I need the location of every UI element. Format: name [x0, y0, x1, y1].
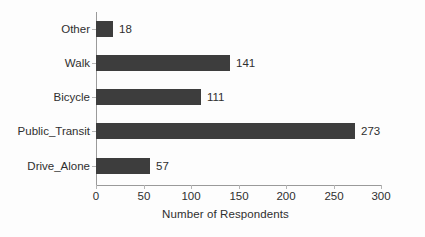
x-axis-title: Number of Respondents	[0, 208, 425, 220]
bar-value-label: 18	[119, 21, 132, 37]
x-axis-tick-label: 200	[266, 190, 306, 202]
category-label-public-transit: Public_Transit	[0, 123, 90, 139]
bar-other	[96, 21, 113, 37]
bar-rect	[96, 89, 201, 105]
category-label-drive-alone: Drive_Alone	[0, 158, 90, 174]
y-axis-tick	[92, 97, 96, 98]
bar-drive-alone	[96, 158, 150, 174]
y-axis-tick	[92, 131, 96, 132]
x-axis-tick-label: 150	[219, 190, 259, 202]
x-axis-tick-mark	[96, 185, 97, 189]
bar-rect	[96, 21, 113, 37]
bar-bicycle	[96, 89, 201, 105]
bar-chart-figure: 1814111127357 OtherWalkBicyclePublic_Tra…	[0, 0, 425, 237]
category-label-bicycle: Bicycle	[0, 89, 90, 105]
bar-value-label: 111	[207, 89, 224, 105]
bar-value-label: 57	[156, 158, 169, 174]
x-axis-tick-label: 300	[361, 190, 401, 202]
x-axis-tick-mark	[381, 185, 382, 189]
x-axis-tick-mark	[334, 185, 335, 189]
bar-value-label: 273	[361, 123, 380, 139]
y-axis-tick	[92, 63, 96, 64]
category-label-other: Other	[0, 21, 90, 37]
bar-public-transit	[96, 123, 355, 139]
x-axis-tick-label: 250	[314, 190, 354, 202]
x-axis-title-text: Number of Respondents	[162, 208, 289, 220]
x-axis-tick-mark	[144, 185, 145, 189]
category-label-walk: Walk	[0, 55, 90, 71]
y-axis-tick	[92, 29, 96, 30]
y-axis-tick	[92, 166, 96, 167]
bar-walk	[96, 55, 230, 71]
x-axis-tick-mark	[286, 185, 287, 189]
x-axis-tick-label: 50	[124, 190, 164, 202]
x-axis-tick-mark	[191, 185, 192, 189]
bar-rect	[96, 123, 355, 139]
bar-value-label: 141	[236, 55, 255, 71]
x-axis-tick-label: 100	[171, 190, 211, 202]
x-axis-tick-mark	[239, 185, 240, 189]
bar-rect	[96, 55, 230, 71]
bar-rect	[96, 158, 150, 174]
x-axis-tick-label: 0	[76, 190, 116, 202]
